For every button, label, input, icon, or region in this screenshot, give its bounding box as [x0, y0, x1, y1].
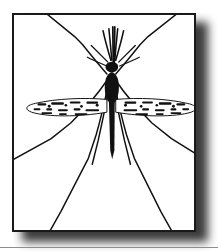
figure-page: Line drawing of a mosquito viewed from a… — [0, 0, 218, 252]
eye-right — [114, 63, 118, 68]
wing-left — [27, 98, 107, 115]
eye-left — [106, 63, 110, 68]
proboscis — [113, 27, 115, 64]
wing-right — [116, 98, 194, 115]
figure-alt-text: Line drawing of a mosquito viewed from a… — [0, 0, 1, 1]
illustration-frame — [12, 13, 196, 232]
mosquito-illustration — [14, 15, 194, 230]
leg-middle-left — [14, 82, 106, 163]
page-divider-rule — [0, 247, 218, 248]
leg-front-left — [43, 15, 107, 74]
leg-middle-right — [117, 82, 194, 163]
leg-front-right — [116, 15, 181, 74]
legs — [14, 15, 194, 230]
abdomen — [109, 101, 115, 159]
